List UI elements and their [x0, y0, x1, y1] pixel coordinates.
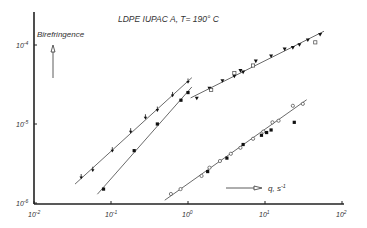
- data-point: [102, 187, 105, 190]
- x-direction-arrow-icon: [226, 186, 262, 190]
- data-point: [208, 166, 211, 169]
- x-tick-label: 102: [336, 209, 347, 218]
- chart: 10-210-1100101102 10-610-510-4 LDPE IUPA…: [0, 0, 367, 228]
- data-point: [314, 41, 317, 44]
- x-tick-label: 10-2: [28, 209, 40, 218]
- data-point: [297, 43, 301, 47]
- x-tick-label: 10-1: [105, 209, 117, 218]
- data-point: [251, 64, 254, 67]
- data-point: [206, 170, 209, 173]
- data-point: [156, 122, 159, 125]
- data-point: [225, 157, 228, 160]
- chart-title: LDPE IUPAC A, T= 190° C: [118, 14, 220, 24]
- x-tick-label: 100: [182, 209, 193, 218]
- data-point: [186, 91, 189, 94]
- data-point: [179, 99, 182, 102]
- y-direction-arrow-icon: [51, 45, 55, 78]
- data-point: [301, 102, 304, 105]
- data-point: [91, 167, 94, 172]
- data-point: [156, 107, 159, 112]
- data-point: [186, 79, 189, 84]
- data-point: [291, 104, 294, 107]
- x-tick-label: 101: [259, 209, 270, 218]
- data-point: [218, 159, 221, 162]
- y-tick-label: 10-5: [16, 119, 28, 128]
- data-point: [318, 33, 322, 37]
- y-axis-label: Birefringence: [37, 30, 85, 39]
- data-point: [195, 97, 199, 101]
- fit-line: [97, 87, 191, 194]
- data-point: [271, 121, 274, 124]
- plot-area: [75, 31, 324, 200]
- data-point: [293, 121, 296, 124]
- data-point: [269, 128, 272, 131]
- data-point: [133, 149, 136, 152]
- data-point: [269, 54, 273, 58]
- data-point: [233, 72, 236, 75]
- data-point: [179, 187, 182, 190]
- data-point: [262, 130, 265, 133]
- data-point: [210, 88, 213, 91]
- data-point: [229, 152, 232, 155]
- y-tick-label: 10-6: [16, 198, 28, 207]
- data-point: [169, 192, 172, 195]
- data-point: [200, 174, 203, 177]
- data-point: [239, 146, 242, 149]
- data-point: [265, 131, 268, 134]
- data-point: [242, 143, 245, 146]
- data-point: [79, 174, 82, 179]
- data-point: [277, 119, 280, 122]
- y-tick-label: 10-4: [16, 40, 28, 49]
- data-point: [254, 60, 258, 64]
- data-point: [251, 137, 254, 140]
- x-axis-label: q, s-1: [268, 183, 286, 193]
- data-point: [260, 134, 263, 137]
